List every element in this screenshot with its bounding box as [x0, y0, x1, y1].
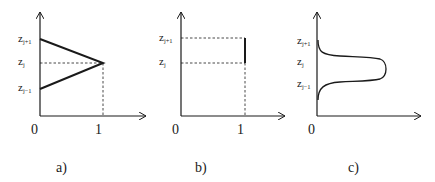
- x-tick-0: 0: [308, 122, 315, 137]
- panel-caption: b): [195, 160, 207, 176]
- label-z-j-minus-1: zj−1: [297, 77, 311, 90]
- figure-canvas: zj+1 zj zj−1 0 1 a) zj+1 zj 0 1 b) zj+1 …: [0, 0, 435, 182]
- label-z-j-plus-1: zj+1: [297, 34, 311, 47]
- label-z-j: zj: [297, 55, 304, 68]
- x-tick-0: 0: [31, 122, 38, 137]
- label-z-j: zj: [159, 55, 166, 68]
- panel-c: zj+1 zj zj−1 0 c): [297, 12, 421, 176]
- panel-a: zj+1 zj zj−1 0 1 a): [18, 12, 146, 176]
- bell-curve: [318, 40, 386, 100]
- panel-caption: a): [56, 160, 67, 176]
- label-z-j-minus-1: zj−1: [18, 81, 32, 94]
- label-z-j-plus-1: zj+1: [159, 31, 173, 44]
- x-tick-1: 1: [95, 122, 102, 137]
- panel-caption: c): [348, 160, 359, 176]
- label-z-j-plus-1: zj+1: [18, 32, 32, 45]
- x-tick-1: 1: [237, 122, 244, 137]
- x-tick-0: 0: [172, 122, 179, 137]
- panel-b: zj+1 zj 0 1 b): [159, 12, 285, 176]
- hat-function-curve: [40, 39, 103, 89]
- label-z-j: zj: [18, 55, 25, 68]
